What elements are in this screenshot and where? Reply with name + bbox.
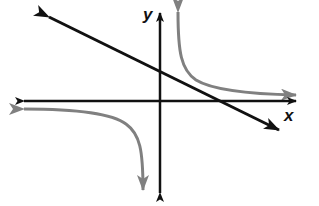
hyperbola-upper-right-branch (178, 12, 296, 95)
x-axis-label: x (284, 107, 293, 124)
y-axis-label: y (143, 6, 152, 23)
graph-canvas (0, 0, 319, 206)
coordinate-graph: y x (0, 0, 319, 206)
hyperbola-lower-left-branch (24, 109, 143, 190)
hyperbola-lower-left-curve (24, 109, 143, 190)
hyperbola-upper-right-curve (178, 12, 296, 95)
